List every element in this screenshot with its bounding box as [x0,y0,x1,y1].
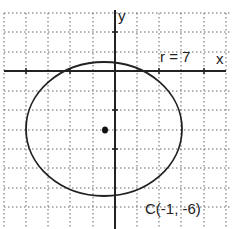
radius-label: r = 7 [160,48,190,65]
center-label: C(-1, -6) [145,200,201,217]
y-axis-label: y [118,7,126,24]
center-point [102,127,108,134]
coordinate-grid-figure: y x r = 7 C(-1, -6) [0,0,232,229]
x-axis-label: x [216,50,224,67]
